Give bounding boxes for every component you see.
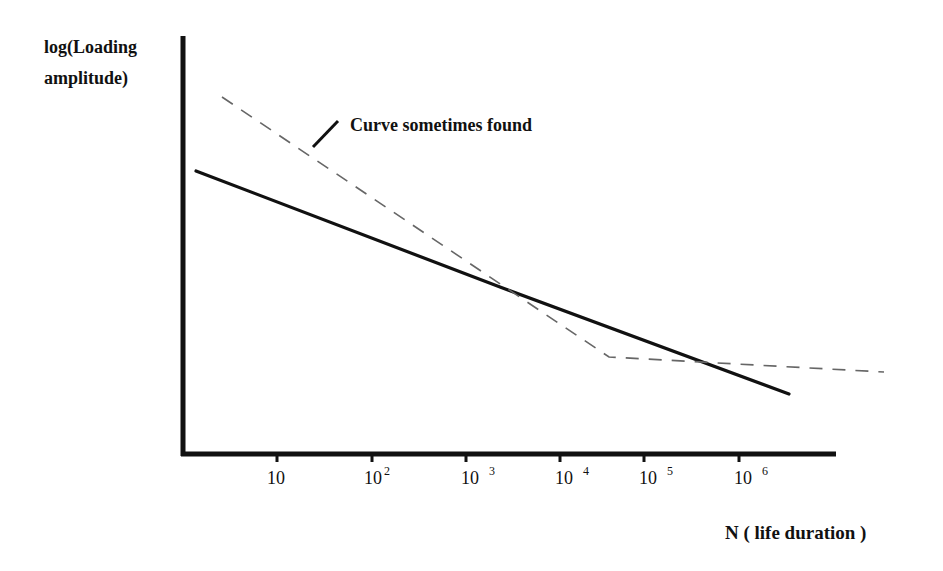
tick-exponent: 6 [762, 464, 768, 478]
x-tick-label-10-6: 106 [734, 464, 768, 489]
tick-exponent: 4 [583, 464, 589, 478]
x-tick-label-10-2: 102 [364, 464, 390, 489]
x-tick-label-10-4: 104 [555, 464, 589, 489]
x-tick-label-10: 10 [267, 464, 287, 489]
tick-exponent: 3 [489, 464, 495, 478]
x-axis-label: N ( life duration ) [725, 522, 866, 544]
annotation-label: Curve sometimes found [350, 115, 532, 136]
tick-base: 10 [639, 468, 657, 488]
tick-base: 10 [461, 468, 479, 488]
tick-base: 10 [364, 468, 382, 488]
tick-exponent: 5 [667, 464, 673, 478]
y-axis-label-line2: amplitude) [44, 63, 137, 94]
tick-exponent: 2 [384, 464, 390, 478]
annotation-leader-line [313, 121, 338, 147]
solid-sn-curve [196, 171, 789, 394]
tick-base: 10 [734, 468, 752, 488]
x-tick-label-10-3: 103 [461, 464, 495, 489]
y-axis-label-line1: log(Loading [44, 32, 137, 63]
x-tick-label-10-5: 105 [639, 464, 673, 489]
y-axis-label: log(Loading amplitude) [44, 32, 137, 94]
tick-base: 10 [555, 468, 573, 488]
tick-base: 10 [267, 468, 285, 488]
